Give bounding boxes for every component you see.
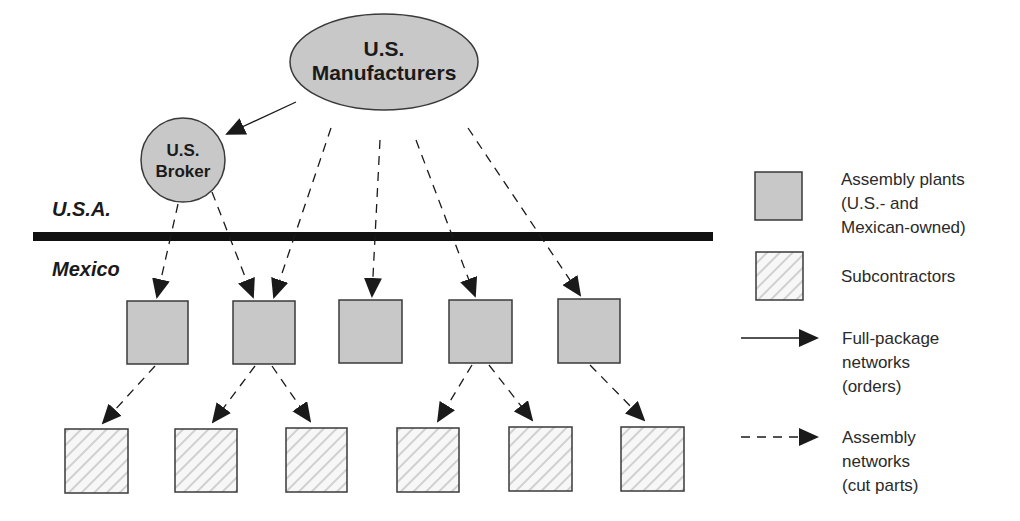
subcontractor-6 — [621, 427, 684, 491]
edge-manufacturers-to-plant-2 — [274, 128, 331, 297]
network-diagram: U.S.A. Mexico U.S. Manufacturers U.S. Br… — [0, 0, 1020, 521]
assembly-plant-3 — [339, 300, 402, 363]
legend-label-assembly-plants-1: Assembly plants — [841, 170, 965, 189]
subcontractor-2 — [175, 429, 237, 492]
edge-manufacturers-to-plant-5 — [468, 128, 580, 295]
subcontractor-5 — [509, 427, 572, 491]
border-line — [33, 232, 713, 241]
legend-label-subcontractors: Subcontractors — [841, 267, 955, 286]
manufacturers-label-line-2: Manufacturers — [312, 61, 457, 84]
assembly-plant-2 — [233, 301, 295, 364]
edge-plant-1-to-sub-1 — [103, 366, 155, 423]
legend-item-subcontractors: Subcontractors — [756, 252, 955, 300]
edge-plant-2-to-sub-2 — [213, 366, 255, 422]
legend-label-assembly-networks-3: (cut parts) — [842, 476, 919, 495]
node-us-manufacturers: U.S. Manufacturers — [290, 14, 478, 110]
legend-item-full-package: Full-package networks (orders) — [741, 329, 939, 396]
legend-label-full-package-1: Full-package — [842, 329, 939, 348]
assembly-plant-5 — [558, 299, 620, 363]
subcontractor-4 — [397, 428, 459, 492]
legend-item-assembly-plants: Assembly plants (U.S.- and Mexican-owned… — [755, 170, 966, 237]
broker-label-line-2: Broker — [156, 162, 211, 181]
subcontractor-3 — [286, 428, 347, 492]
broker-circle — [141, 118, 225, 202]
legend-item-assembly-networks: Assembly networks (cut parts) — [741, 428, 919, 495]
legend-swatch-assembly-plant — [755, 172, 802, 220]
assembly-plant-4 — [449, 300, 512, 363]
region-label-mexico: Mexico — [52, 258, 120, 280]
legend-label-assembly-networks-2: networks — [842, 452, 910, 471]
subcontractors-row — [65, 427, 684, 493]
edge-plant-4-to-sub-4 — [438, 365, 472, 421]
edge-manufacturers-to-broker — [227, 102, 296, 134]
edge-plant-2-to-sub-3 — [272, 366, 310, 421]
broker-label-line-1: U.S. — [166, 141, 199, 160]
assembly-plant-1 — [127, 301, 188, 364]
edge-broker-to-plant-1 — [157, 204, 178, 297]
edge-plant-4-to-sub-5 — [489, 365, 532, 420]
node-us-broker: U.S. Broker — [141, 118, 225, 202]
legend-label-full-package-2: networks — [842, 353, 910, 372]
manufacturers-label-line-1: U.S. — [364, 37, 405, 60]
legend: Assembly plants (U.S.- and Mexican-owned… — [741, 170, 966, 495]
assembly-plants-row — [127, 299, 620, 364]
legend-label-assembly-plants-2: (U.S.- and — [841, 194, 918, 213]
legend-label-assembly-networks-1: Assembly — [842, 428, 916, 447]
edge-broker-to-plant-2 — [212, 192, 253, 297]
edge-manufacturers-to-plant-4 — [416, 140, 475, 296]
legend-label-full-package-3: (orders) — [842, 377, 902, 396]
legend-label-assembly-plants-3: Mexican-owned) — [841, 218, 966, 237]
legend-swatch-subcontractor — [756, 252, 803, 300]
region-label-usa: U.S.A. — [52, 198, 111, 220]
subcontractor-1 — [65, 429, 128, 493]
edge-plant-5-to-sub-6 — [590, 365, 644, 420]
edge-manufacturers-to-plant-3 — [372, 140, 380, 296]
